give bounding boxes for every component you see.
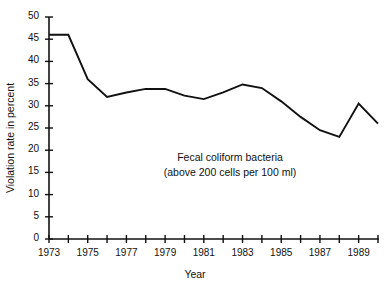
y-tick-label: 15 — [13, 165, 39, 176]
x-tick-label: 1987 — [300, 247, 340, 258]
x-tick-label: 1979 — [145, 247, 185, 258]
x-tick-label: 1973 — [29, 247, 69, 258]
y-tick-label: 35 — [13, 77, 39, 88]
y-axis-label: Violation rate in percent — [0, 38, 20, 238]
x-tick-label: 1977 — [106, 247, 146, 258]
cropped-header-artifact: · · · · · · · · · · — [6, 0, 126, 2]
x-axis-label: Year — [0, 268, 390, 280]
axes — [49, 17, 379, 239]
y-tick-label: 30 — [13, 99, 39, 110]
y-tick-label: 45 — [13, 32, 39, 43]
series-annotation: Fecal coliform bacteria (above 200 cells… — [130, 150, 330, 180]
x-tick-label: 1981 — [184, 247, 224, 258]
x-tick-label: 1983 — [223, 247, 263, 258]
y-tick-label: 40 — [13, 54, 39, 65]
annotation-line-1: Fecal coliform bacteria — [130, 150, 330, 165]
x-tick-label: 1985 — [261, 247, 301, 258]
y-tick-label: 25 — [13, 121, 39, 132]
violation-rate-series-line — [49, 35, 378, 137]
y-tick-label: 10 — [13, 188, 39, 199]
x-tick-label: 1975 — [68, 247, 108, 258]
annotation-line-2: (above 200 cells per 100 ml) — [130, 165, 330, 180]
y-tick-label: 0 — [13, 232, 39, 243]
y-tick-label: 20 — [13, 143, 39, 154]
y-tick-label: 5 — [13, 210, 39, 221]
x-tick-label: 1989 — [339, 247, 379, 258]
y-tick-label: 50 — [13, 10, 39, 21]
chart-figure: · · · · · · · · · · Violation rate in pe… — [0, 0, 390, 293]
